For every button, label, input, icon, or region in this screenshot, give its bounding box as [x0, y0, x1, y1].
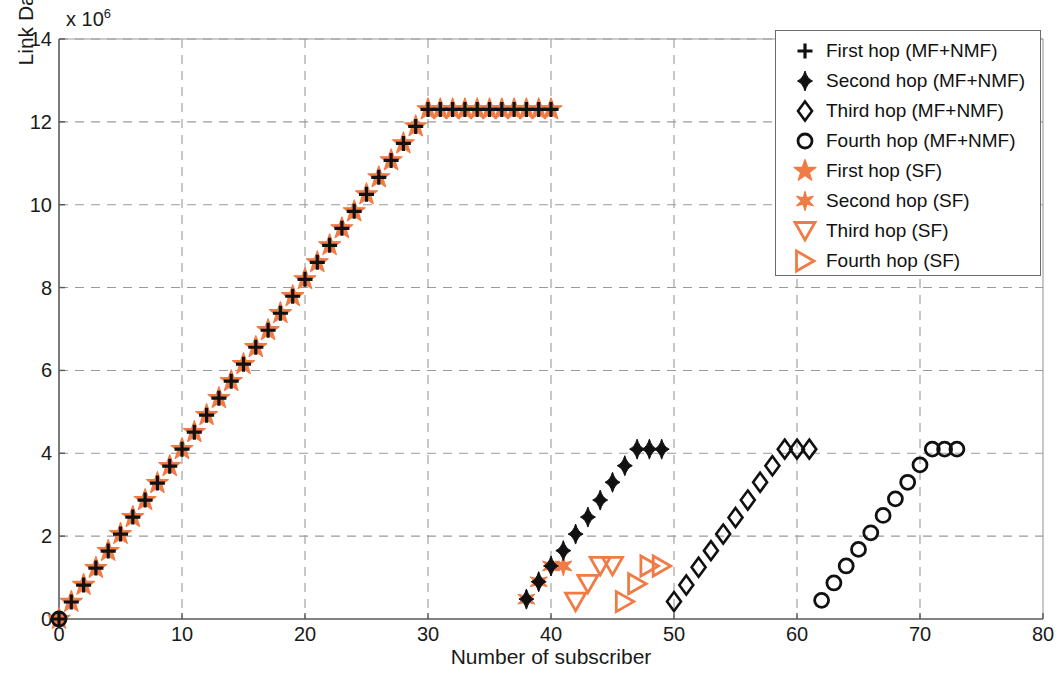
series-triangle-right	[616, 556, 670, 612]
legend-marker-diamond-open-icon	[784, 97, 826, 125]
legend-marker-glyph	[795, 223, 815, 241]
marker-circle-open	[876, 508, 890, 522]
legend-item[interactable]: Second hop (MF+NMF)	[784, 66, 1040, 96]
legend-marker-plus-icon	[784, 37, 826, 65]
marker-triangle-right	[797, 251, 815, 271]
legend-item[interactable]: First hop (SF)	[784, 156, 1040, 186]
marker-diamond-filled	[593, 490, 608, 510]
marker-circle-open	[839, 559, 853, 573]
marker-diamond-open	[741, 491, 755, 510]
marker-circle-open	[901, 475, 915, 489]
marker-diamond-open	[798, 102, 812, 121]
chart-figure: x 106 Link Data Rate in bps 02468101214 …	[0, 0, 1058, 674]
legend-marker-triangle-right-icon	[784, 247, 826, 275]
legend-item[interactable]: Fourth hop (MF+NMF)	[784, 126, 1040, 156]
marker-diamond-open	[765, 456, 779, 475]
marker-diamond-open	[679, 576, 693, 595]
legend-marker-glyph	[797, 192, 813, 211]
legend-item-label: Third hop (SF)	[826, 220, 948, 242]
legend-marker-star5-icon	[784, 157, 826, 185]
marker-plus	[798, 44, 813, 59]
legend-marker-glyph	[798, 71, 813, 91]
legend-item-label: First hop (SF)	[826, 160, 942, 182]
marker-diamond-filled	[556, 541, 571, 561]
series-circle-open	[52, 442, 964, 626]
marker-diamond-filled	[798, 71, 813, 91]
marker-star5	[794, 160, 816, 181]
legend-item[interactable]: First hop (MF+NMF)	[784, 36, 1040, 66]
legend-marker-glyph	[798, 102, 812, 121]
legend-marker-glyph	[797, 251, 815, 271]
legend-marker-circle-open-icon	[784, 127, 826, 155]
marker-circle-open	[852, 542, 866, 556]
series-diamond-open	[667, 440, 816, 611]
legend: First hop (MF+NMF)Second hop (MF+NMF)Thi…	[775, 30, 1041, 276]
legend-item-label: Third hop (MF+NMF)	[826, 100, 1004, 122]
marker-diamond-filled	[544, 556, 559, 576]
legend-marker-glyph	[798, 134, 812, 148]
marker-diamond-filled	[580, 507, 595, 527]
marker-triangle-right	[616, 592, 634, 612]
marker-triangle-down	[795, 223, 815, 241]
marker-diamond-filled	[605, 472, 620, 492]
marker-diamond-filled	[519, 589, 534, 609]
marker-circle-open	[798, 134, 812, 148]
legend-marker-triangle-down-icon	[784, 217, 826, 245]
legend-items: First hop (MF+NMF)Second hop (MF+NMF)Thi…	[776, 31, 1040, 276]
legend-item[interactable]: Fourth hop (SF)	[784, 246, 1040, 276]
marker-diamond-filled	[617, 456, 632, 476]
marker-triangle-down	[566, 593, 586, 611]
marker-star6	[797, 192, 813, 211]
marker-diamond-open	[729, 508, 743, 527]
legend-item-label: Fourth hop (MF+NMF)	[826, 130, 1016, 152]
marker-diamond-filled	[654, 439, 669, 459]
marker-diamond-filled	[531, 572, 546, 592]
marker-triangle-down	[578, 575, 598, 593]
legend-item[interactable]: Third hop (SF)	[784, 216, 1040, 246]
marker-diamond-open	[692, 558, 706, 577]
legend-item-label: Fourth hop (SF)	[826, 250, 960, 272]
legend-item-label: Second hop (MF+NMF)	[826, 70, 1025, 92]
marker-triangle-right	[629, 574, 647, 594]
marker-circle-open	[888, 492, 902, 506]
marker-circle-open	[864, 526, 878, 540]
legend-item-label: First hop (MF+NMF)	[826, 40, 998, 62]
marker-diamond-open	[716, 525, 730, 544]
legend-item-label: Second hop (SF)	[826, 190, 970, 212]
marker-circle-open	[827, 576, 841, 590]
legend-item[interactable]: Second hop (SF)	[784, 186, 1040, 216]
legend-marker-diamond-filled-icon	[784, 67, 826, 95]
marker-diamond-filled	[568, 524, 583, 544]
marker-diamond-open	[704, 541, 718, 560]
legend-marker-glyph	[794, 160, 816, 181]
x-axis-label: Number of subscriber	[59, 645, 1043, 669]
marker-circle-open	[815, 593, 829, 607]
legend-item[interactable]: Third hop (MF+NMF)	[784, 96, 1040, 126]
legend-marker-glyph	[798, 44, 813, 59]
legend-marker-star6-icon	[784, 187, 826, 215]
series-triangle-down	[566, 557, 623, 610]
marker-diamond-open	[753, 473, 767, 492]
